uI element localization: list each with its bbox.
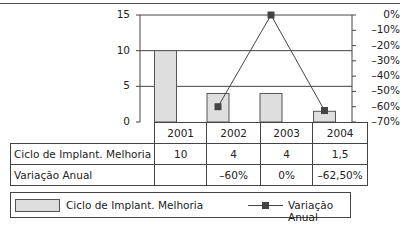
table-cell: 4 — [207, 144, 261, 165]
data-table: 2001 2002 2003 2004 Ciclo de Implant. Me… — [10, 122, 368, 186]
table-cell: 1,5 — [313, 144, 368, 165]
bar — [155, 51, 177, 122]
table-cell: 0% — [261, 165, 313, 186]
left-tick-label: 15 — [100, 8, 130, 20]
right-tick-label: –20% — [360, 39, 400, 51]
legend-line-label: Variação Anual — [288, 199, 350, 223]
right-tick-label: –10% — [360, 23, 400, 35]
right-tick-label: –40% — [360, 69, 400, 81]
bar — [260, 93, 282, 122]
left-tick-label: 5 — [100, 79, 130, 91]
right-tick-label: 0% — [360, 8, 400, 20]
table-header-cell: 2004 — [313, 123, 368, 144]
right-tick-label: –50% — [360, 84, 400, 96]
square-marker-icon — [321, 107, 328, 114]
table-cell: 4 — [261, 144, 313, 165]
table-cell — [155, 165, 207, 186]
bar-swatch-icon — [15, 199, 60, 212]
row-label: Variação Anual — [11, 165, 155, 186]
table-corner — [11, 123, 155, 144]
right-tick-label: –60% — [360, 100, 400, 112]
table-cell: 10 — [155, 144, 207, 165]
table-header-row: 2001 2002 2003 2004 — [11, 123, 368, 144]
chart-legend: Ciclo de Implant. Melhoria Variação Anua… — [10, 192, 351, 218]
table-header-cell: 2002 — [207, 123, 261, 144]
left-tick-label: 10 — [100, 44, 130, 56]
square-marker-icon — [262, 202, 269, 209]
square-marker-icon — [215, 103, 222, 110]
legend-bar-label: Ciclo de Implant. Melhoria — [66, 199, 203, 211]
table-cell: –62,50% — [313, 165, 368, 186]
right-tick-label: –30% — [360, 54, 400, 66]
table-row: Variação Anual –60% 0% –62,50% — [11, 165, 368, 186]
table-header-cell: 2003 — [261, 123, 313, 144]
table-cell: –60% — [207, 165, 261, 186]
row-label: Ciclo de Implant. Melhoria — [11, 144, 155, 165]
table-header-cell: 2001 — [155, 123, 207, 144]
square-marker-icon — [268, 12, 275, 19]
table-row: Ciclo de Implant. Melhoria 10 4 4 1,5 — [11, 144, 368, 165]
